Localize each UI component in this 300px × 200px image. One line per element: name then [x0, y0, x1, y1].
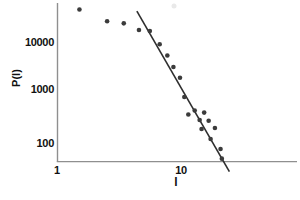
data-point [171, 65, 176, 70]
data-point [202, 110, 207, 115]
data-point [186, 112, 191, 117]
y-tick-label-10000: 10000 [0, 36, 54, 48]
y-tick-label-1000: 1000 [0, 83, 54, 95]
x-axis-title: l [165, 176, 187, 189]
data-point [218, 147, 223, 152]
data-point [105, 19, 110, 24]
fit-line [137, 11, 230, 172]
data-point [206, 119, 211, 124]
data-point [208, 137, 213, 142]
data-point [121, 21, 126, 26]
data-point [182, 95, 187, 100]
x-tick-label-10: 10 [169, 164, 193, 176]
y-tick-label-100: 100 [0, 137, 54, 149]
faint-smudge [172, 4, 177, 9]
x-tick-label-1: 1 [45, 164, 69, 176]
data-point [197, 118, 202, 123]
data-point [148, 29, 153, 34]
data-point [137, 28, 142, 33]
data-point [199, 127, 204, 132]
data-point [77, 7, 82, 12]
data-point [192, 108, 197, 113]
log-log-scatter-chart: P(l) 10000 1000 100 1 10 l [0, 0, 300, 200]
data-point [213, 126, 218, 131]
data-point [165, 53, 170, 58]
data-point [178, 75, 183, 80]
data-point [157, 42, 162, 47]
data-point [220, 156, 225, 161]
